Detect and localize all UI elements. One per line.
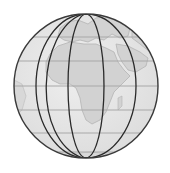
globe-svg: [0, 0, 170, 173]
globe-illustration: Globe illustration showing Africa and Eu…: [0, 0, 170, 173]
